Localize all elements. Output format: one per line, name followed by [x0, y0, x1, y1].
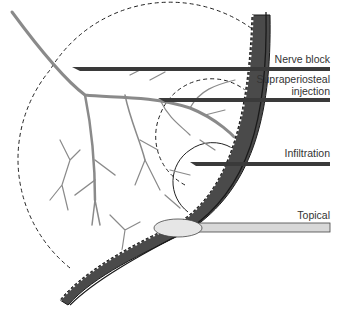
infiltration-label: Infiltration	[284, 147, 330, 159]
infiltration-needle	[190, 162, 330, 166]
topical-swab	[154, 219, 330, 237]
mucosa	[60, 15, 270, 305]
mucosa-scallops	[60, 15, 252, 300]
supraperiosteal-needle	[158, 98, 330, 102]
supraperiosteal-label: Supraperiosteal injection	[256, 73, 330, 97]
nerve-block-needle	[72, 67, 330, 71]
anesthesia-diagram: Nerve block Supraperiosteal injection In…	[0, 0, 342, 314]
topical-label: Topical	[297, 209, 330, 221]
nerve-block-label: Nerve block	[275, 53, 330, 65]
